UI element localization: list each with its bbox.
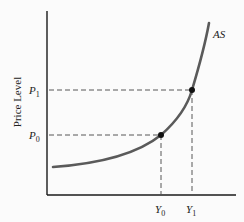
y-tick-p1: P1 bbox=[28, 84, 40, 99]
point-y0-p0 bbox=[158, 132, 164, 138]
as-curve-label: AS bbox=[212, 28, 226, 40]
y-axis-label: Price Level bbox=[11, 77, 23, 127]
as-curve bbox=[53, 23, 209, 167]
aggregate-supply-chart: Price Level AS P1 P0 Y0 Y1 bbox=[0, 0, 244, 222]
x-tick-y0: Y0 bbox=[155, 203, 165, 218]
x-tick-y1: Y1 bbox=[186, 203, 196, 218]
point-y1-p1 bbox=[189, 87, 195, 93]
y-tick-p0: P0 bbox=[28, 129, 40, 144]
